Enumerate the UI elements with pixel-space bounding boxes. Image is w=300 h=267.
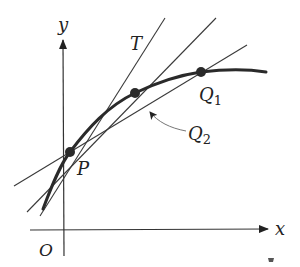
point-p <box>65 147 75 157</box>
point-q2-label: Q2 <box>188 123 211 147</box>
secant-line-pq1 <box>14 45 247 186</box>
origin-label: O <box>39 240 53 260</box>
point-q1-label: Q1 <box>199 84 222 108</box>
smudge-mark <box>268 258 274 262</box>
y-axis <box>63 40 64 256</box>
point-q2-letter: Q <box>188 123 203 144</box>
point-q1-subscript: 1 <box>214 93 222 108</box>
point-q2 <box>130 88 140 98</box>
point-q2-subscript: 2 <box>203 132 211 147</box>
secant-line-pq2 <box>27 18 216 212</box>
point-q1-letter: Q <box>199 84 214 105</box>
x-axis-label: x <box>275 218 285 239</box>
q2-leader-arrow <box>150 112 186 131</box>
point-q1 <box>196 67 206 77</box>
y-axis-label: y <box>57 14 69 35</box>
point-p-label: P <box>76 158 90 179</box>
curve <box>43 70 266 209</box>
secant-tangent-diagram: y x O T P Q1 Q2 <box>0 0 300 267</box>
tangent-label: T <box>130 33 144 54</box>
x-axis <box>30 229 268 230</box>
